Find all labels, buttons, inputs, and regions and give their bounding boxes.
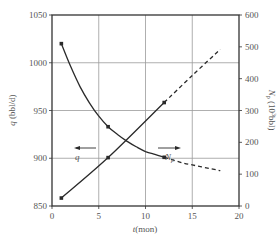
np-data-marker — [106, 156, 110, 160]
y-left-tick-label: 850 — [34, 201, 48, 211]
y-left-tick-label: 1000 — [29, 58, 48, 68]
arrow-right-icon — [175, 146, 181, 150]
grid-lines — [52, 15, 239, 206]
y-right-tick-label: 300 — [245, 106, 259, 116]
q-data-marker — [106, 125, 110, 129]
x-tick-label: 15 — [188, 211, 198, 221]
y-left-tick-label: 950 — [34, 106, 48, 116]
x-tick-label: 0 — [50, 211, 55, 221]
x-tick-label: 10 — [141, 211, 151, 221]
np-solid-line — [61, 103, 164, 199]
np-data-marker — [162, 101, 166, 105]
x-tick-label: 5 — [97, 211, 102, 221]
axis-ticks: 0510152085090095010001050010020030040050… — [29, 10, 259, 221]
y-right-axis-title: Np (103bbl) — [266, 89, 277, 131]
y-left-tick-label: 900 — [34, 153, 48, 163]
y-right-tick-label: 200 — [245, 137, 259, 147]
q-annotation: q — [74, 146, 96, 162]
q-solid-line — [61, 44, 164, 158]
y-left-axis-title: q (bbl/d) — [7, 94, 17, 125]
arrow-left-icon — [74, 146, 80, 150]
q-data-marker — [60, 42, 64, 46]
q-arrow-label: q — [75, 152, 80, 162]
y-right-tick-label: 100 — [245, 169, 259, 179]
x-tick-label: 20 — [235, 211, 245, 221]
chart: 0510152085090095010001050010020030040050… — [0, 0, 278, 247]
y-right-tick-label: 400 — [245, 74, 259, 84]
np-data-marker — [60, 196, 64, 200]
x-axis-title: t(mon) — [133, 224, 158, 234]
np-arrow-label: Np — [164, 152, 174, 163]
series-layer — [60, 42, 221, 200]
y-right-tick-label: 500 — [245, 42, 259, 52]
np-annotation: Np — [158, 146, 181, 163]
y-right-tick-label: 0 — [245, 201, 250, 211]
y-left-tick-label: 1050 — [29, 10, 48, 20]
y-right-tick-label: 600 — [245, 10, 259, 20]
